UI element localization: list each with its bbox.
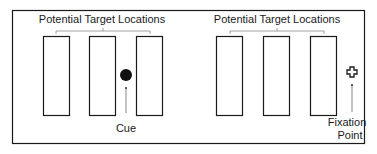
right-location-2 [264, 37, 290, 116]
fixation-label-line1: Fixation [328, 116, 367, 128]
left-location-1 [44, 37, 70, 116]
left-header-label: Potential Target Locations [39, 13, 166, 25]
cue-dot [120, 69, 132, 81]
left-location-3 [137, 37, 163, 116]
diagram-canvas: Potential Target Locations Cue Potential… [0, 0, 377, 154]
fixation-label-line2: Point [337, 129, 362, 141]
cue-pointer-tip [125, 87, 127, 89]
left-bracket [56, 28, 150, 34]
right-bracket [230, 28, 324, 34]
right-header-label: Potential Target Locations [214, 13, 341, 25]
frame-border [13, 11, 365, 144]
right-location-3 [311, 37, 337, 116]
fixation-pointer-tip [351, 84, 353, 86]
left-location-2 [90, 37, 116, 116]
fixation-cross-icon [347, 67, 357, 77]
cue-label: Cue [116, 122, 136, 134]
right-location-1 [217, 37, 243, 116]
